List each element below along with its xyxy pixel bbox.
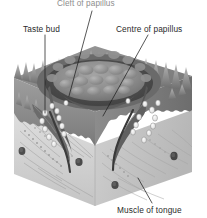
taste-bud — [43, 126, 48, 132]
taste-bud — [147, 130, 152, 136]
taste-bud — [62, 131, 67, 137]
taste-bud — [134, 122, 139, 128]
label-muscle-of-tongue: Muscle of tongue — [117, 205, 182, 215]
taste-bud — [40, 118, 45, 124]
taste-bud — [131, 129, 136, 135]
taste-bud — [156, 100, 161, 106]
label-taste-bud: Taste bud — [23, 24, 60, 34]
taste-bud — [50, 103, 55, 109]
muscle-front-right-face — [95, 110, 192, 206]
taste-bud — [142, 137, 147, 143]
taste-bud — [126, 98, 130, 104]
taste-bud — [52, 141, 57, 147]
taste-bud — [47, 134, 52, 140]
label-cleft-of-papillus: Cleft of papillus — [57, 0, 115, 9]
taste-bud — [55, 108, 60, 114]
taste-bud — [153, 115, 158, 121]
taste-bud — [151, 123, 156, 129]
taste-bud — [149, 107, 154, 113]
taste-bud — [57, 115, 62, 121]
taste-bud — [64, 100, 68, 106]
taste-bud — [143, 101, 148, 107]
taste-bud — [60, 123, 65, 129]
label-centre-of-papillus: Centre of papillus — [116, 24, 182, 34]
taste-bud — [137, 114, 142, 120]
